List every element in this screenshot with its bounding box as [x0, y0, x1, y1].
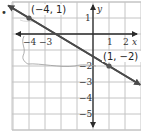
- y-axis-label: y: [96, 4, 103, 14]
- x-tick-label: 2: [123, 37, 129, 47]
- point-label-a: (−4, 1): [31, 4, 66, 15]
- coordinate-plane: xy−4−3121−2−3−4−5 (−4, 1)(1, −2): [0, 0, 141, 133]
- x-axis-label: x: [132, 37, 137, 47]
- x-tick-label: −3: [39, 37, 53, 47]
- y-tick-label: −4: [79, 93, 93, 103]
- y-tick-label: 1: [85, 13, 91, 23]
- data-point: [106, 63, 111, 68]
- y-tick-label: −5: [79, 109, 93, 119]
- x-tick-label: 1: [107, 37, 113, 47]
- y-tick-label: −2: [79, 61, 92, 71]
- data-point: [26, 15, 31, 20]
- point-label-b: (1, −2): [103, 51, 138, 62]
- y-tick-label: −3: [79, 77, 93, 87]
- x-tick-label: −4: [23, 37, 37, 47]
